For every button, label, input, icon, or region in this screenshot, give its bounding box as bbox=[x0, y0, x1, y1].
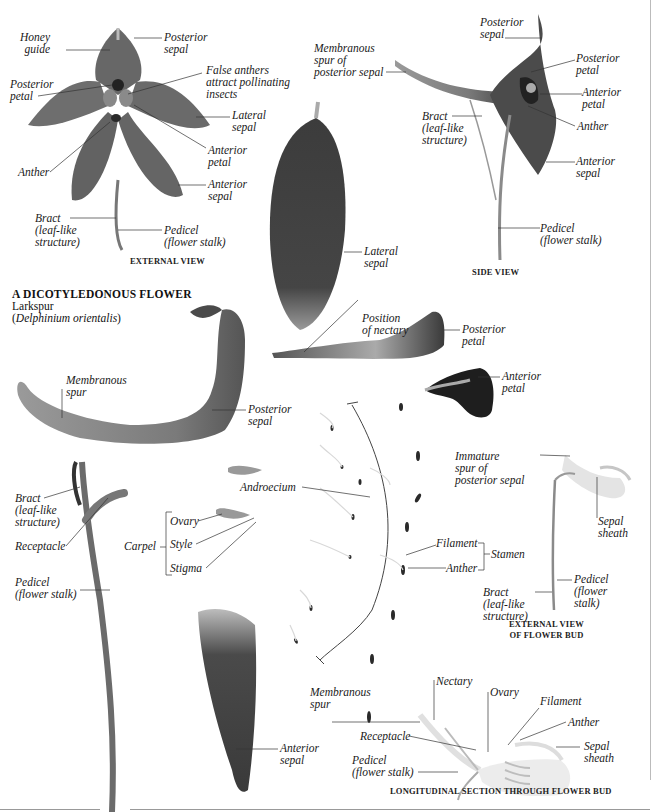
diagram-canvas: Honey guide Posterior sepal Posterior pe… bbox=[0, 0, 656, 812]
label-anterior-sepal: Anterior sepal bbox=[208, 178, 247, 202]
label-false-anthers: False anthers attract pollinating insect… bbox=[206, 64, 290, 100]
label-side-pedicel: Pedicel (flower stalk) bbox=[540, 222, 602, 246]
caption-external-view-bud: EXTERNAL VIEW OF FLOWER BUD bbox=[509, 619, 584, 641]
title-scientific-name: (Delphinium orientalis) bbox=[12, 312, 192, 324]
label-side-posterior-petal: Posterior petal bbox=[576, 52, 619, 76]
label-side-bract: Bract (leaf-like structure) bbox=[422, 110, 467, 146]
label-stamen: Stamen bbox=[491, 548, 525, 560]
bottom-border bbox=[130, 809, 650, 810]
label-bract-bud: Bract (leaf-like structure) bbox=[483, 586, 528, 622]
label-posterior-petal-isolated: Posterior petal bbox=[462, 323, 505, 347]
label-carpel: Carpel bbox=[124, 540, 156, 552]
label-honey-guide: Honey guide bbox=[20, 31, 50, 55]
label-section-anther: Anther bbox=[568, 716, 599, 728]
label-section-ovary: Ovary bbox=[490, 686, 519, 698]
left-pedicel-shape bbox=[74, 462, 124, 812]
label-pedicel: Pedicel (flower stalk) bbox=[164, 224, 226, 248]
label-sepal-sheath-bud: Sepal sheath bbox=[598, 515, 628, 539]
label-bract: Bract (leaf-like structure) bbox=[35, 212, 80, 248]
posterior-sepal-shape bbox=[17, 305, 245, 444]
diagram-title: A DICOTYLEDONOUS FLOWER Larkspur (Delphi… bbox=[12, 288, 192, 324]
label-side-membranous-spur: Membranous spur of posterior sepal bbox=[314, 42, 383, 78]
label-posterior-sepal-isolated: Posterior sepal bbox=[248, 403, 291, 427]
label-section-sepal-sheath: Sepal sheath bbox=[584, 740, 614, 764]
right-border bbox=[650, 0, 651, 780]
lateral-sepal-tip bbox=[316, 102, 318, 118]
carpel-shape bbox=[216, 508, 250, 518]
label-side-anther: Anther bbox=[577, 120, 608, 132]
androecium-stamen-shape bbox=[228, 466, 262, 475]
label-lateral-sepal-isolated: Lateral sepal bbox=[364, 245, 398, 269]
label-side-anterior-sepal: Anterior sepal bbox=[576, 155, 615, 179]
label-membranous-spur: Membranous spur bbox=[66, 374, 127, 398]
label-side-anterior-petal: Anterior petal bbox=[582, 86, 621, 110]
label-section-membranous-spur: Membranous spur bbox=[310, 686, 371, 710]
side-view-flower bbox=[395, 14, 556, 260]
label-section-pedicel: Pedicel (flower stalk) bbox=[352, 754, 414, 778]
caption-longitudinal-section: LONGITUDINAL SECTION THROUGH FLOWER BUD bbox=[390, 786, 612, 797]
anterior-sepal-shape bbox=[198, 609, 256, 792]
label-filament: Filament bbox=[436, 537, 478, 549]
caption-side-view: SIDE VIEW bbox=[472, 267, 519, 278]
label-stigma: Stigma bbox=[170, 562, 202, 574]
anterior-petal-shape bbox=[425, 368, 494, 417]
label-posterior-petal: Posterior petal bbox=[10, 78, 53, 102]
label-anther: Anther bbox=[18, 166, 49, 178]
label-posterior-sepal: Posterior sepal bbox=[164, 31, 207, 55]
label-section-filament: Filament bbox=[540, 695, 582, 707]
bottom-border-left bbox=[0, 809, 100, 810]
label-section-nectary: Nectary bbox=[436, 675, 472, 687]
label-anther-stamen: Anther bbox=[446, 562, 477, 574]
label-anterior-petal-isolated: Anterior petal bbox=[502, 370, 541, 394]
label-receptacle: Receptacle bbox=[15, 540, 65, 552]
label-immature-spur: Immature spur of posterior sepal bbox=[455, 450, 524, 486]
androecium-arc bbox=[290, 402, 422, 723]
label-pedicel-left: Pedicel (flower stalk) bbox=[15, 576, 77, 600]
label-section-receptacle: Receptacle bbox=[360, 730, 410, 742]
caption-external-view: EXTERNAL VIEW bbox=[130, 256, 205, 267]
title-common-name: Larkspur bbox=[12, 300, 192, 312]
label-pedicel-bud: Pedicel (flower stalk) bbox=[574, 573, 608, 609]
label-androecium: Androecium bbox=[240, 481, 296, 493]
title-heading: A DICOTYLEDONOUS FLOWER bbox=[12, 288, 192, 300]
label-style: Style bbox=[170, 538, 192, 550]
lateral-sepal-shape bbox=[270, 118, 346, 330]
label-lateral-sepal: Lateral sepal bbox=[232, 109, 266, 133]
label-anterior-petal: Anterior petal bbox=[208, 144, 247, 168]
label-anterior-sepal-isolated: Anterior sepal bbox=[280, 742, 319, 766]
label-side-posterior-sepal: Posterior sepal bbox=[480, 16, 523, 40]
label-ovary: Ovary bbox=[170, 515, 199, 527]
label-bract-left: Bract (leaf-like structure) bbox=[15, 492, 60, 528]
label-position-of-nectary: Position of nectary bbox=[362, 312, 408, 336]
